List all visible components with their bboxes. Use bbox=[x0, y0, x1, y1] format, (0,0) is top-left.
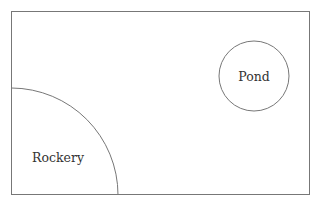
garden-diagram: Pond Rockery bbox=[0, 0, 320, 201]
rockery-shape bbox=[12, 88, 119, 195]
rockery-label: Rockery bbox=[32, 150, 85, 165]
pond-label: Pond bbox=[238, 69, 269, 84]
garden-boundary bbox=[12, 12, 310, 195]
